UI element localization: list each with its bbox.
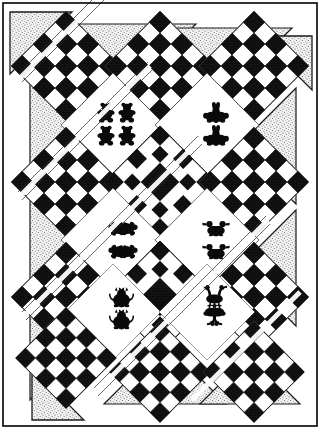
block-layer	[11, 11, 309, 423]
quilt-canvas	[0, 0, 320, 429]
quilt-pattern-figure: Diagonal Set Quilt Pattern Diagram Black…	[0, 0, 320, 429]
